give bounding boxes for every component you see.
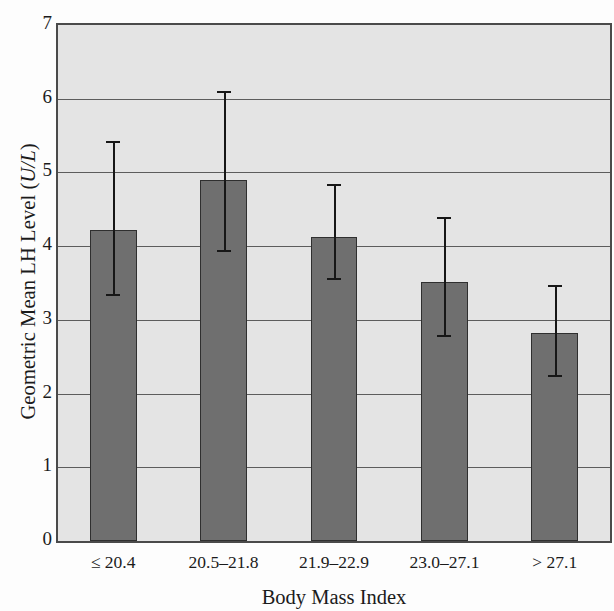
gridline xyxy=(58,172,610,173)
y-axis-tick-label: 6 xyxy=(26,87,52,106)
x-axis-tick-labels: ≤ 20.420.5–21.821.9–22.923.0–27.1> 27.1 xyxy=(56,552,612,582)
error-bar-cap-upper xyxy=(327,184,341,186)
y-axis-tick-label: 5 xyxy=(26,160,52,179)
error-bar-cap-lower xyxy=(437,335,451,337)
x-axis-tick-label: ≤ 20.4 xyxy=(58,552,168,572)
error-bar-cap-upper xyxy=(217,91,231,93)
y-axis-tick-labels: 76543210 xyxy=(22,0,52,611)
x-axis-title: Body Mass Index xyxy=(56,586,612,609)
error-bar-cap-upper xyxy=(106,141,120,143)
y-axis-tick-label: 2 xyxy=(26,382,52,401)
error-bar-cap-upper xyxy=(548,285,562,287)
error-bar-cap-lower xyxy=(548,375,562,377)
x-axis-tick-label: 23.0–27.1 xyxy=(389,552,499,572)
error-bar-cap-lower xyxy=(217,250,231,252)
y-axis-tick-label: 0 xyxy=(26,529,52,548)
plot-area xyxy=(56,23,612,543)
error-bar-line xyxy=(444,217,446,334)
error-bar-cap-upper xyxy=(437,217,451,219)
x-axis-tick-label: > 27.1 xyxy=(500,552,610,572)
error-bar-cap-lower xyxy=(327,278,341,280)
y-axis-tick-label: 4 xyxy=(26,234,52,253)
y-axis-tick-label: 3 xyxy=(26,308,52,327)
error-bar-cap-lower xyxy=(106,294,120,296)
bar xyxy=(311,237,358,541)
error-bar-line xyxy=(555,285,557,375)
error-bar-line xyxy=(224,91,226,249)
error-bar-line xyxy=(334,184,336,278)
x-axis-tick-label: 20.5–21.8 xyxy=(168,552,278,572)
error-bar-line xyxy=(113,141,115,294)
gridline xyxy=(58,99,610,100)
y-axis-tick-label: 7 xyxy=(26,13,52,32)
chart-figure: Geometric Mean LH Level (U/L) 76543210 ≤… xyxy=(0,0,614,611)
x-axis-tick-label: 21.9–22.9 xyxy=(279,552,389,572)
y-axis-tick-label: 1 xyxy=(26,455,52,474)
